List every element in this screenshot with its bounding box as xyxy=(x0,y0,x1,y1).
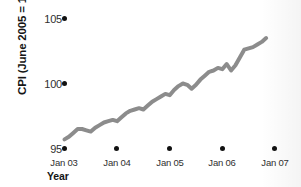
cpi-series-line xyxy=(65,38,267,139)
chart-plot-area xyxy=(0,0,301,187)
chart-figure: CPI (June 2005 = 100) 105 100 95 Jan 03 … xyxy=(0,0,301,187)
